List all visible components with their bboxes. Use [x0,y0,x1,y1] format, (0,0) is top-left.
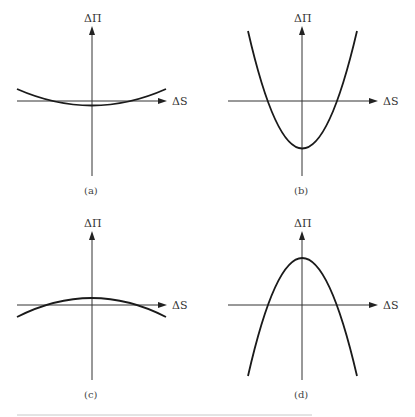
panel-caption: (d) [294,389,308,400]
x-axis-arrow-icon [158,302,167,308]
y-axis-arrow-icon [299,231,305,240]
panel-caption: (b) [294,185,308,196]
x-axis-label: ΔS [172,299,187,312]
x-axis-arrow-icon [369,302,378,308]
panel-a: ΔΠ ΔS (a) [17,12,187,196]
figure: ΔΠ ΔS (a) ΔΠ ΔS (b) ΔΠ ΔS (c) ΔΠ ΔS (d) [0,0,415,417]
panel-b: ΔΠ ΔS (b) [228,12,398,196]
x-axis-label: ΔS [172,95,187,108]
x-axis-label: ΔS [383,95,398,108]
panel-caption: (c) [84,389,98,400]
y-axis-arrow-icon [89,231,95,240]
x-axis-label: ΔS [383,299,398,312]
panel-c: ΔΠ ΔS (c) [17,217,187,400]
y-axis-label: ΔΠ [294,12,312,25]
y-axis-label: ΔΠ [294,217,312,230]
y-axis-label: ΔΠ [84,217,102,230]
x-axis-arrow-icon [158,98,167,104]
y-axis-label: ΔΠ [84,12,102,25]
panel-caption: (a) [84,185,98,196]
panel-d: ΔΠ ΔS (d) [228,217,398,400]
y-axis-arrow-icon [299,26,305,35]
y-axis-arrow-icon [89,26,95,35]
x-axis-arrow-icon [369,98,378,104]
